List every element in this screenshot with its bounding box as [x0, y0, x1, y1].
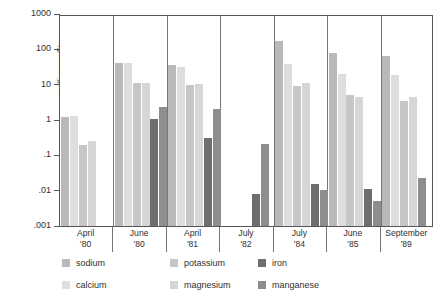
y-tick-label: .01: [38, 185, 51, 195]
y-tick-label: .001: [33, 220, 51, 230]
bar-manganese: [261, 144, 269, 226]
bars-layer: [60, 16, 432, 226]
bar-iron: [204, 138, 212, 226]
bar-magnesium: [302, 83, 310, 226]
chart-legend: sodiumpotassiumironcalciummagnesiummanga…: [62, 258, 392, 300]
bar-sodium: [382, 56, 390, 226]
legend-label-magnesium: magnesium: [184, 280, 231, 290]
x-label-year: '84: [273, 239, 326, 250]
legend-label-sodium: sodium: [76, 258, 105, 268]
bar-manganese: [418, 178, 426, 226]
x-label-month: June: [344, 228, 363, 238]
legend-item-potassium[interactable]: potassium: [170, 258, 225, 268]
bar-iron: [252, 194, 260, 226]
x-label-month: April: [77, 228, 94, 238]
x-axis-group-label: June'80: [112, 228, 165, 249]
bar-potassium: [79, 145, 87, 226]
legend-swatch-sodium: [62, 259, 70, 267]
x-label-year: '80: [112, 239, 165, 250]
bar-calcium: [177, 67, 185, 226]
bar-iron: [311, 184, 319, 226]
legend-swatch-potassium: [170, 259, 178, 267]
bar-potassium: [133, 83, 141, 226]
bar-potassium: [186, 85, 194, 226]
bar-calcium: [391, 75, 399, 226]
x-label-month: April: [184, 228, 201, 238]
bar-manganese: [373, 201, 381, 226]
bar-magnesium: [195, 84, 203, 226]
bar-potassium: [346, 95, 354, 226]
x-label-month: June: [130, 228, 149, 238]
y-tick-label: 10: [41, 79, 51, 89]
bar-manganese: [320, 190, 328, 226]
x-label-year: '80: [59, 239, 112, 250]
y-tick-mark: [54, 14, 60, 15]
legend-item-manganese[interactable]: manganese: [258, 280, 319, 290]
y-tick-label: 1: [46, 114, 51, 124]
x-label-year: '85: [326, 239, 379, 250]
legend-label-manganese: manganese: [272, 280, 319, 290]
legend-item-iron[interactable]: iron: [258, 258, 287, 268]
legend-swatch-magnesium: [170, 281, 178, 289]
legend-label-calcium: calcium: [76, 280, 107, 290]
bar-calcium: [338, 74, 346, 226]
legend-swatch-manganese: [258, 281, 266, 289]
bar-chart: milligrams/liter 1000100101.1.01.001 Apr…: [0, 0, 443, 308]
bar-sodium: [61, 117, 69, 226]
x-axis-group-label: April'80: [59, 228, 112, 249]
x-axis-group-label: June'85: [326, 228, 379, 249]
x-label-month: July: [238, 228, 253, 238]
bar-sodium: [168, 65, 176, 226]
legend-item-sodium[interactable]: sodium: [62, 258, 105, 268]
bar-calcium: [284, 64, 292, 226]
y-tick-label: 1000: [31, 8, 51, 18]
x-label-year: '82: [219, 239, 272, 250]
legend-swatch-calcium: [62, 281, 70, 289]
legend-swatch-iron: [258, 259, 266, 267]
bar-iron: [364, 189, 372, 226]
legend-item-magnesium[interactable]: magnesium: [170, 280, 231, 290]
bar-magnesium: [409, 97, 417, 226]
bar-calcium: [124, 63, 132, 226]
x-axis-group-label: April'81: [166, 228, 219, 249]
plot-area: 1000100101.1.01.001: [59, 15, 433, 227]
bar-magnesium: [142, 83, 150, 226]
x-axis-labels: April'80June'80April'81July'82July'84Jun…: [59, 227, 433, 252]
bar-potassium: [293, 86, 301, 226]
x-axis-group-label: July'84: [273, 228, 326, 249]
x-label-month: July: [292, 228, 307, 238]
bar-manganese: [159, 107, 167, 226]
bar-magnesium: [355, 97, 363, 226]
x-axis-group-label: July'82: [219, 228, 272, 249]
bar-sodium: [115, 63, 123, 226]
bar-potassium: [400, 101, 408, 226]
x-label-year: '81: [166, 239, 219, 250]
x-label-year: '89: [380, 239, 433, 250]
legend-item-calcium[interactable]: calcium: [62, 280, 107, 290]
x-label-month: September: [385, 228, 427, 238]
bar-sodium: [275, 41, 283, 226]
bar-iron: [150, 119, 158, 226]
y-tick-label: 100: [36, 43, 51, 53]
y-tick-label: .1: [43, 149, 51, 159]
bar-magnesium: [88, 141, 96, 226]
x-axis-group-label: September'89: [380, 228, 433, 249]
legend-label-potassium: potassium: [184, 258, 225, 268]
bar-sodium: [329, 53, 337, 226]
bar-manganese: [213, 109, 221, 226]
legend-label-iron: iron: [272, 258, 287, 268]
bar-calcium: [70, 116, 78, 226]
